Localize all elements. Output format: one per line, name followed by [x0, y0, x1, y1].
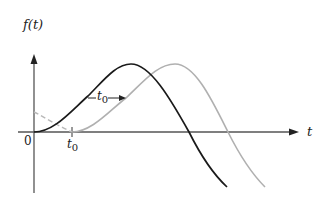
origin-label: 0 — [24, 134, 32, 148]
t0-tick-label: t0 — [67, 137, 78, 153]
original-curve — [34, 64, 227, 187]
x-axis-arrow-icon — [289, 129, 299, 136]
shift-arrow-label: t0 — [97, 89, 108, 105]
y-axis-label: f(t) — [22, 17, 43, 32]
x-axis-label: t — [307, 124, 313, 139]
time-shift-diagram: f(t) t 0 t0 t0 — [0, 0, 325, 199]
y-axis-arrow-icon — [31, 54, 38, 64]
